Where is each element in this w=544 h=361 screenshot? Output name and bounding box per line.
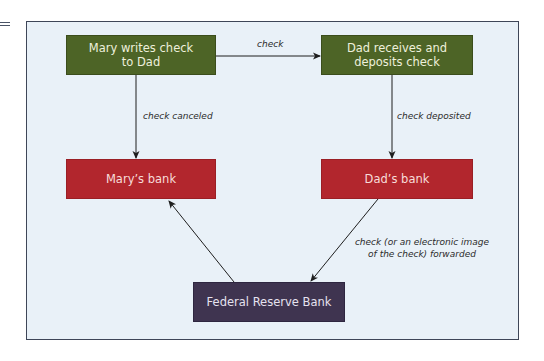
edge-label-check: check: [257, 38, 283, 50]
node-dad-receives-check: Dad receives and deposits check: [321, 35, 473, 75]
edge-label-check-deposited: check deposited: [397, 110, 471, 122]
node-text-line: to Dad: [89, 55, 193, 69]
node-text-line: Mary writes check: [89, 41, 193, 55]
edge-label-line: check (or an electronic image: [352, 236, 492, 248]
edge-label-check-canceled: check canceled: [143, 110, 213, 122]
node-dads-bank: Dad’s bank: [321, 159, 473, 199]
edge-label-forwarded: check (or an electronic image of the che…: [352, 236, 492, 260]
node-text-line: Dad receives and: [347, 41, 447, 55]
node-text: Dad’s bank: [365, 172, 430, 186]
node-text-line: deposits check: [347, 55, 447, 69]
node-text: Mary’s bank: [106, 172, 176, 186]
node-mary-writes-check: Mary writes check to Dad: [66, 35, 216, 75]
arrow-fed-to-marys-bank: [169, 201, 234, 282]
edge-label-line: of the check) forwarded: [352, 248, 492, 260]
node-marys-bank: Mary’s bank: [66, 159, 216, 199]
node-federal-reserve-bank: Federal Reserve Bank: [193, 282, 345, 322]
node-text: Federal Reserve Bank: [207, 295, 332, 309]
